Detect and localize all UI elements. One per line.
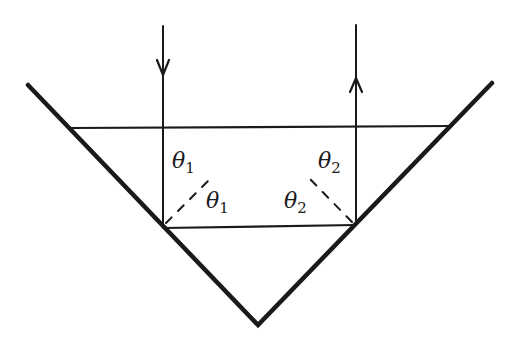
label-theta2-reflected: θ2 [318,150,341,176]
v-mirror [28,83,492,325]
diagram-canvas [0,0,521,349]
label-theta1-incident: θ1 [172,150,195,176]
reflected-ray-horizontal [163,225,356,228]
normal-right [308,177,352,222]
label-theta1-reflected: θ1 [206,190,229,216]
label-theta2-incident: θ2 [284,190,307,216]
liquid-surface [70,126,452,128]
